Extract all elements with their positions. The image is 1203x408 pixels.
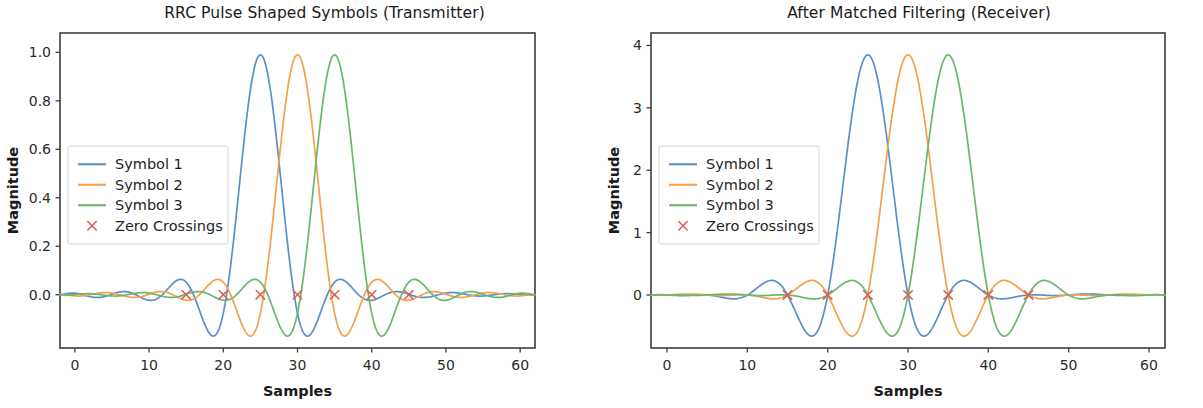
x-tick-label: 20 <box>214 357 232 373</box>
x-axis-label: Samples <box>873 383 942 399</box>
chart-panel-receiver: After Matched Filtering (Receiver) 01020… <box>601 0 1203 408</box>
x-tick-label: 10 <box>140 357 158 373</box>
x-tick-label: 10 <box>738 357 756 373</box>
x-tick-label: 60 <box>511 357 529 373</box>
legend: Symbol 1Symbol 2Symbol 3Zero Crossings <box>659 146 819 244</box>
y-tick-label: 0.6 <box>29 141 51 157</box>
y-axis-label: Magnitude <box>606 147 622 235</box>
legend-label: Symbol 2 <box>706 177 774 193</box>
legend-label: Zero Crossings <box>115 218 223 234</box>
legend: Symbol 1Symbol 2Symbol 3Zero Crossings <box>68 146 228 244</box>
y-tick-label: 0 <box>633 287 642 303</box>
x-tick-label: 30 <box>289 357 307 373</box>
legend-label: Symbol 1 <box>706 156 774 172</box>
y-tick-label: 1.0 <box>29 44 51 60</box>
x-tick-label: 60 <box>1140 357 1158 373</box>
y-tick-label: 0.0 <box>29 287 51 303</box>
legend-label: Symbol 3 <box>115 197 183 213</box>
figure-root: RRC Pulse Shaped Symbols (Transmitter) 0… <box>0 0 1203 408</box>
legend-label: Zero Crossings <box>706 218 814 234</box>
y-tick-label: 0.8 <box>29 93 51 109</box>
y-axis-label: Magnitude <box>5 147 21 235</box>
x-tick-label: 30 <box>899 357 917 373</box>
y-tick-label: 0.2 <box>29 238 51 254</box>
y-tick-label: 0.4 <box>29 190 51 206</box>
chart-panel-transmitter: RRC Pulse Shaped Symbols (Transmitter) 0… <box>0 0 601 408</box>
x-tick-label: 20 <box>819 357 837 373</box>
legend-label: Symbol 1 <box>115 156 183 172</box>
x-axis-label: Samples <box>263 383 332 399</box>
plot-area-receiver: 010203040506001234SamplesMagnitudeSymbol… <box>601 0 1203 408</box>
legend-label: Symbol 3 <box>706 197 774 213</box>
x-tick-label: 50 <box>1060 357 1078 373</box>
x-tick-label: 0 <box>663 357 672 373</box>
x-tick-label: 50 <box>437 357 455 373</box>
plot-area-transmitter: 01020304050600.00.20.40.60.81.0SamplesMa… <box>0 0 601 408</box>
y-tick-label: 2 <box>633 162 642 178</box>
y-tick-label: 3 <box>633 100 642 116</box>
x-tick-label: 0 <box>70 357 79 373</box>
y-tick-label: 4 <box>633 37 642 53</box>
y-tick-label: 1 <box>633 225 642 241</box>
x-tick-label: 40 <box>979 357 997 373</box>
legend-label: Symbol 2 <box>115 177 183 193</box>
x-tick-label: 40 <box>363 357 381 373</box>
